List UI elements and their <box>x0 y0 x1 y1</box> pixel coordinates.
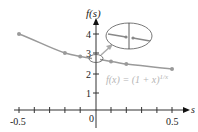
function-label: f(x) = (1 + x)1/x <box>106 73 169 86</box>
y-tick-label: 1 <box>86 88 91 99</box>
x-axis-arrow-icon <box>183 107 190 113</box>
y-tick-label: 2 <box>86 69 91 80</box>
inset-point <box>124 35 127 38</box>
y-axis-arrow-icon <box>93 18 99 25</box>
x-tick-label: 0.5 <box>166 116 179 127</box>
x-axis-label: s <box>191 104 195 115</box>
limit-chart: -0.5 0 0.5 s 1 2 3 4 f(s) f(x) = (1 + x)… <box>0 0 198 132</box>
y-tick-label: 4 <box>86 29 91 40</box>
y-axis-label: f(s) <box>86 7 101 20</box>
x-tick-label: 0 <box>89 113 94 124</box>
inset-point <box>131 36 134 39</box>
x-tick-label: -0.5 <box>10 116 26 127</box>
